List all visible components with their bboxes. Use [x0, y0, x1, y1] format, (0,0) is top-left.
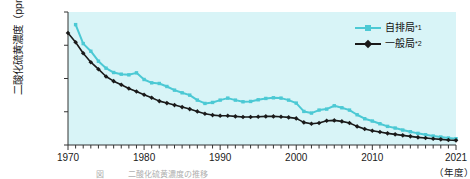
- x-tick-label: 2021: [445, 152, 467, 163]
- chart-legend: 自排局*1 一般局*2: [355, 20, 422, 52]
- legend-note-ippankyoku: *2: [415, 36, 422, 52]
- legend-item-ippankyoku: 一般局*2: [355, 36, 422, 52]
- x-tick-label: 1980: [133, 152, 155, 163]
- x-tick-label: 1970: [57, 152, 79, 163]
- legend-swatch-ippankyoku: [355, 39, 381, 49]
- legend-swatch-jihaikyoku: [355, 23, 381, 33]
- legend-label-ippankyoku: 一般局: [385, 36, 415, 52]
- x-tick-label: 2000: [285, 152, 307, 163]
- x-tick-label: 1990: [209, 152, 231, 163]
- x-axis-unit-label: （年度）: [434, 165, 470, 179]
- figure-caption: 図 二酸化硫黄濃度の推移: [96, 168, 208, 179]
- x-tick-label: 2010: [361, 152, 383, 163]
- chart-container: 二酸化硫黄濃度（ppm） 00.0100.0200.0300.040 19701…: [0, 0, 470, 179]
- legend-label-jihaikyoku: 自排局: [385, 20, 415, 36]
- legend-item-jihaikyoku: 自排局*1: [355, 20, 422, 36]
- legend-note-jihaikyoku: *1: [415, 20, 422, 36]
